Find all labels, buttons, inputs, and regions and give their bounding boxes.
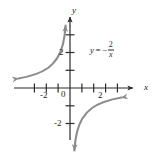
- x-axis-label: x: [144, 83, 148, 92]
- y-tick-label-2: 2: [59, 48, 64, 57]
- equation-denominator: x: [108, 51, 114, 59]
- origin-label: 0: [61, 90, 66, 99]
- y-tick-label-neg2: -2: [54, 119, 62, 128]
- y-axis-label: y: [72, 6, 76, 15]
- x-axis: [14, 84, 133, 93]
- x-tick-label-neg2: -2: [40, 91, 48, 100]
- graph-figure: x y 0 -2 2 2 -2 y = − 2 x: [0, 0, 156, 153]
- equation-fraction: 2 x: [108, 41, 114, 59]
- equation-minus-sign: −: [102, 46, 107, 55]
- equation-label: y = − 2 x: [90, 41, 114, 59]
- x-tick-label-2: 2: [98, 91, 103, 100]
- y-axis: [66, 17, 75, 140]
- curve-branch-lower-right: [74, 98, 121, 151]
- equation-equals-sign: =: [96, 46, 101, 55]
- equation-lhs: y: [90, 46, 94, 55]
- plot-canvas: [0, 0, 156, 153]
- equation-numerator: 2: [108, 41, 114, 49]
